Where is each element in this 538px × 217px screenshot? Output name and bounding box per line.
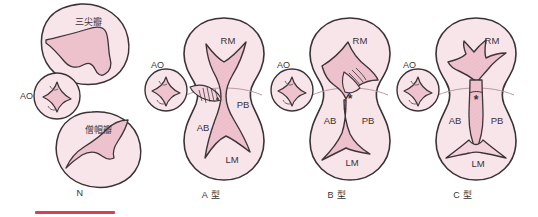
valve-diagram-svg: 三尖瓣 僧帽瓣 AO A xyxy=(0,0,538,217)
panel-caption-a: A 型 xyxy=(186,188,236,201)
label-ab-a: AB xyxy=(197,122,210,133)
panel-n: 三尖瓣 僧帽瓣 AO xyxy=(20,4,141,188)
label-asterisk-b: * xyxy=(348,92,353,106)
panel-caption-n: N xyxy=(60,188,100,198)
label-mitral: 僧帽瓣 xyxy=(85,124,112,135)
label-pb-c: PB xyxy=(491,115,504,126)
label-rm-c: RM xyxy=(485,35,500,46)
panel-caption-b: B 型 xyxy=(312,188,362,201)
label-ao-c: AO xyxy=(403,60,416,70)
label-ab-c: AB xyxy=(449,115,462,126)
label-lm-c: LM xyxy=(471,158,484,169)
caption-fragment xyxy=(122,209,282,214)
figure-canvas: 三尖瓣 僧帽瓣 AO A xyxy=(0,0,538,217)
label-ao-b: AO xyxy=(277,60,290,70)
label-ao-a: AO xyxy=(151,60,164,70)
label-tricuspid: 三尖瓣 xyxy=(75,16,102,27)
label-rm-a: RM xyxy=(221,35,236,46)
label-lm-a: LM xyxy=(225,154,238,165)
panel-b: AO RM * AB PB LM xyxy=(271,18,390,180)
label-pb-b: PB xyxy=(362,115,375,126)
caption-fragment-2 xyxy=(290,208,530,212)
label-lm-b: LM xyxy=(345,157,358,168)
label-ao-n: AO xyxy=(20,91,33,101)
label-ab-b: AB xyxy=(324,115,337,126)
panel-caption-c: C 型 xyxy=(438,188,488,201)
label-rm-b: RM xyxy=(353,35,368,46)
caption-red-bar xyxy=(35,211,115,214)
cut-off-caption-strip xyxy=(0,208,538,217)
label-asterisk-c: * xyxy=(474,93,479,107)
label-pb-a: PB xyxy=(237,99,250,110)
panel-a: AO RM PB AB LM xyxy=(145,18,264,180)
panel-c: AO RM * AB PB LM xyxy=(397,18,516,180)
